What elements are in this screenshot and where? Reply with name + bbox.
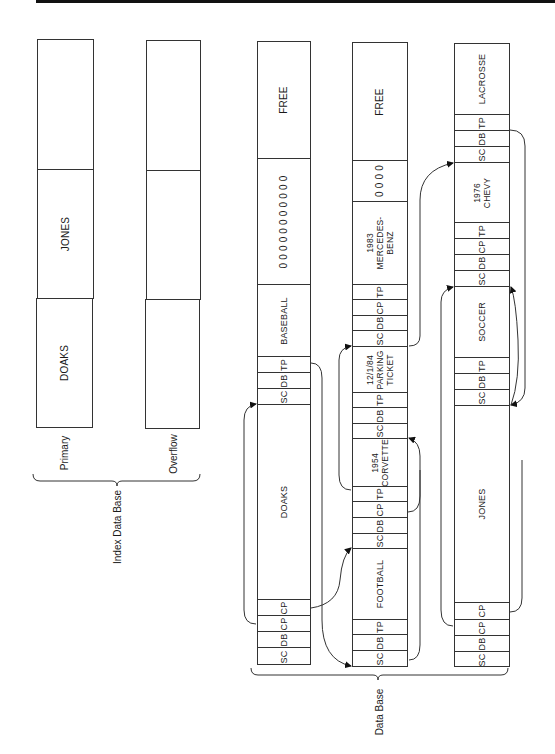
arrow-col-b-to-chevy: [409, 163, 453, 346]
arrow-jones-cp-to-lacrosse: [455, 162, 522, 610]
arrow-jones-cp-right: [510, 460, 522, 612]
arrow-soccer-to-chevy: [511, 287, 518, 405]
arrow-jones-cp-to-soccer: [441, 287, 453, 626]
arrow-cp-to-corvette: [408, 438, 420, 512]
index-brace: [33, 474, 200, 486]
arrow-corvette-tp-to-parking: [339, 346, 351, 490]
arrow-col-b-to-col-c: [409, 470, 420, 660]
arrow-baseball-tp-to-football: [311, 363, 351, 666]
arrow-doaks-cp-to-col-b: [311, 548, 351, 608]
connector-overlay: [0, 0, 555, 754]
data-base-brace: [251, 668, 508, 680]
arrow-lacrosse-tp-to-jones: [510, 130, 525, 405]
arrow-doaks-cp-to-baseball: [244, 404, 256, 624]
